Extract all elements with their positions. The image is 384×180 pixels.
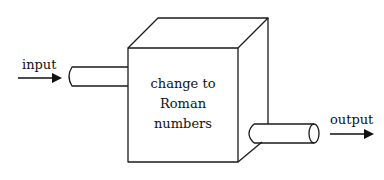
input-pipe xyxy=(69,67,128,86)
output-arrow-icon xyxy=(330,129,374,139)
process-label-line: Roman xyxy=(128,94,238,114)
process-label: change to Roman numbers xyxy=(128,74,238,134)
input-label: input xyxy=(22,58,56,71)
cube-top-face xyxy=(128,18,268,48)
process-label-line: numbers xyxy=(128,114,238,134)
input-arrow-icon xyxy=(18,73,62,83)
output-label: output xyxy=(330,113,373,126)
cube-bottom-edge xyxy=(238,142,262,162)
output-pipe xyxy=(249,124,319,143)
process-label-line: change to xyxy=(128,74,238,94)
